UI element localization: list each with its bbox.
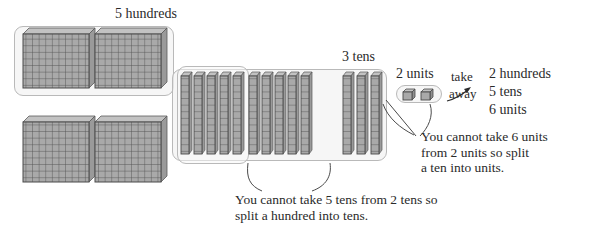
subtrahend-tens: 5 tens bbox=[489, 84, 522, 100]
subtrahend-units: 6 units bbox=[489, 102, 527, 118]
label-away: away bbox=[449, 86, 476, 102]
base-ten-blocks-diagram: 5 hundreds 3 tens 2 units take away 2 hu… bbox=[0, 0, 595, 229]
leader-line-connector bbox=[386, 100, 416, 136]
hundred-flat bbox=[23, 116, 95, 182]
leader-line-tens-left bbox=[248, 163, 262, 191]
leader-line-units bbox=[383, 104, 414, 135]
subtrahend-hundreds: 2 hundreds bbox=[489, 66, 551, 82]
tens-split-group-container bbox=[177, 66, 249, 164]
hundred-flat bbox=[95, 116, 167, 182]
leader-line-tens-right bbox=[312, 163, 330, 191]
tens-note-caption: You cannot take 5 tens from 2 tens so sp… bbox=[235, 192, 438, 223]
units-group-container bbox=[396, 85, 442, 103]
label-take: take bbox=[451, 69, 473, 85]
label-units: 2 units bbox=[396, 66, 434, 82]
hundreds-group-container bbox=[14, 26, 174, 96]
label-hundreds: 5 hundreds bbox=[115, 6, 177, 22]
label-tens: 3 tens bbox=[342, 49, 375, 65]
units-note-caption: You cannot take 6 units from 2 units so … bbox=[421, 129, 548, 176]
